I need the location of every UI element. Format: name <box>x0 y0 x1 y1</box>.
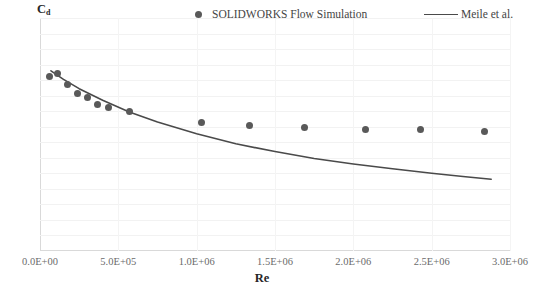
meile-curve-path <box>51 71 491 179</box>
data-point <box>198 119 205 126</box>
y-axis-title: Cd <box>37 3 50 17</box>
x-axis-tick-label: 2.0E+06 <box>318 256 388 267</box>
data-point <box>54 70 61 77</box>
y-axis-title-base: C <box>37 2 46 16</box>
x-axis-tick-label: 2.5E+06 <box>397 256 467 267</box>
data-point <box>74 90 81 97</box>
x-axis-tick-label: 1.5E+06 <box>240 256 310 267</box>
data-point <box>84 94 91 101</box>
x-axis-tick-label: 0.0E+00 <box>5 256 75 267</box>
data-point <box>46 73 53 80</box>
plot-area: 0.250.260.270.280.290.30.310.320.330.340… <box>40 18 510 251</box>
legend-marker-dot-icon <box>195 11 202 18</box>
meile-curve <box>40 18 510 251</box>
x-axis-tick-label: 3.0E+06 <box>475 256 533 267</box>
legend-line-icon <box>424 14 458 15</box>
x-axis-title: Re <box>0 272 524 285</box>
data-point <box>362 126 369 133</box>
x-axis-tick-label: 5.0E+05 <box>83 256 153 267</box>
x-axis-tick-label: 1.0E+06 <box>162 256 232 267</box>
gridline-vertical <box>510 18 511 251</box>
data-point <box>64 81 71 88</box>
y-axis-title-subscript: d <box>46 8 50 17</box>
figure-caption <box>48 288 448 297</box>
